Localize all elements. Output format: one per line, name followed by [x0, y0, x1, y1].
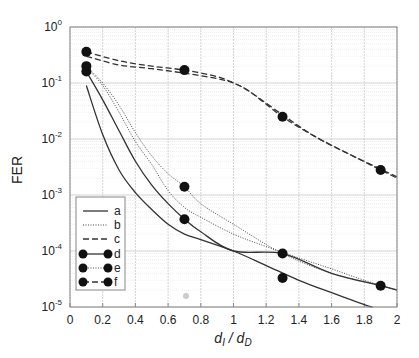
legend-marker-icon: [104, 250, 113, 259]
x-tick-label: 1.8: [356, 313, 373, 327]
y-tick-label: 10-5: [42, 298, 63, 314]
x-tick-label: 1.6: [323, 313, 340, 327]
legend-marker-icon: [104, 264, 113, 273]
marker-f: [376, 165, 386, 175]
y-tick-label: 10-1: [42, 74, 63, 90]
x-tick-label: 2: [394, 313, 401, 327]
marker-d: [278, 273, 288, 283]
marker-d: [179, 214, 189, 224]
x-tick-label: 1: [230, 313, 237, 327]
fer-chart: 00.20.40.60.811.21.41.61.82 10-510-410-3…: [0, 0, 419, 358]
marker-e: [179, 182, 189, 192]
legend-label-c: c: [114, 232, 120, 246]
legend-label-e: e: [114, 261, 121, 275]
chart-svg: 00.20.40.60.811.21.41.61.82 10-510-410-3…: [0, 0, 419, 358]
legend-label-a: a: [114, 204, 121, 218]
marker-e: [81, 61, 91, 71]
x-tick-label: 0.2: [94, 313, 111, 327]
y-axis-label: FER: [9, 156, 25, 184]
legend-marker-icon: [79, 250, 88, 259]
x-tick-label: 0: [67, 313, 74, 327]
y-tick-label: 10-3: [42, 186, 63, 202]
legend-marker-icon: [79, 264, 88, 273]
y-tick-label: 10-2: [42, 130, 63, 146]
marker-upper_solid: [278, 249, 288, 259]
legend: abcdef: [76, 197, 125, 290]
x-tick-label: 1.2: [258, 313, 275, 327]
marker-f: [278, 112, 288, 122]
x-axis-label: dI / dD: [214, 330, 251, 348]
x-tick-label: 0.6: [160, 313, 177, 327]
marker-upper_solid: [376, 281, 386, 291]
marker-f: [81, 47, 91, 57]
y-tick-label: 10-4: [42, 242, 63, 258]
curve-c: [86, 56, 397, 177]
x-tick-label: 1.4: [291, 313, 308, 327]
curve-d: [86, 72, 397, 291]
curve-a: [86, 86, 372, 307]
marker-f: [179, 65, 189, 75]
legend-marker-icon: [104, 278, 113, 287]
x-tick-labels: 00.20.40.60.811.21.41.61.82: [67, 313, 401, 327]
y-tick-label: 100: [44, 18, 62, 34]
legend-marker-icon: [79, 278, 88, 287]
curve-b: [86, 67, 397, 290]
legend-label-b: b: [114, 218, 121, 232]
x-tick-label: 0.4: [127, 313, 144, 327]
x-tick-label: 0.8: [192, 313, 209, 327]
legend-label-d: d: [114, 247, 121, 261]
stray-dot: [183, 293, 189, 299]
curve-f: [86, 52, 397, 178]
curves: [86, 52, 397, 307]
y-tick-labels: 10-510-410-310-210-1100: [42, 18, 63, 314]
